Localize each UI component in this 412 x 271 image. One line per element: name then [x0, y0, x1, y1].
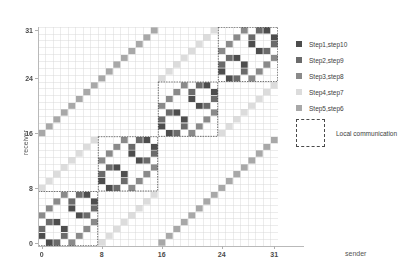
- legend-item: Step5,step6: [296, 100, 347, 116]
- legend-local-communication: Local communication: [296, 119, 397, 147]
- y-axis-title: receiver: [22, 130, 29, 155]
- legend: Step1,step10Step2,step9Step3,step8Step4,…: [296, 36, 347, 116]
- legend-item: Step2,step9: [296, 52, 347, 68]
- x-tick-label: 31: [270, 251, 278, 258]
- legend-item: Step3,step8: [296, 68, 347, 84]
- x-tick-label: 8: [100, 251, 104, 258]
- legend-item-label: Step3,step8: [309, 73, 344, 80]
- x-axis-title: sender: [345, 250, 366, 257]
- y-tick-label: 0: [22, 239, 33, 246]
- y-tick-label: 8: [22, 184, 33, 191]
- y-tick-label: 24: [22, 75, 33, 82]
- x-axis-line: [38, 246, 304, 247]
- legend-swatch-icon: [296, 73, 302, 79]
- y-tick-mark: [35, 78, 38, 79]
- legend-item-label: Step4,step7: [309, 89, 344, 96]
- legend-item-label: Step1,step10: [309, 41, 347, 48]
- y-tick-mark: [35, 243, 38, 244]
- y-tick-mark: [35, 133, 38, 134]
- dashed-box-icon: [296, 119, 325, 147]
- y-axis-line: [38, 27, 39, 246]
- legend-swatch-icon: [296, 89, 302, 95]
- legend-local-communication-label: Local communication: [336, 130, 397, 137]
- legend-item-label: Step5,step6: [309, 105, 344, 112]
- legend-item-label: Step2,step9: [309, 57, 344, 64]
- x-tick-mark: [42, 246, 43, 249]
- heatmap-plot-area: [38, 27, 278, 246]
- y-tick-label: 31: [22, 27, 33, 34]
- x-tick-label: 0: [40, 251, 44, 258]
- x-tick-mark: [102, 246, 103, 249]
- x-tick-label: 24: [218, 251, 226, 258]
- legend-swatch-icon: [296, 105, 302, 111]
- legend-item: Step1,step10: [296, 36, 347, 52]
- legend-swatch-icon: [296, 57, 302, 63]
- legend-item: Step4,step7: [296, 84, 347, 100]
- heatmap-canvas: [38, 27, 278, 246]
- y-tick-mark: [35, 30, 38, 31]
- x-tick-mark: [222, 246, 223, 249]
- x-tick-mark: [162, 246, 163, 249]
- x-tick-mark: [274, 246, 275, 249]
- communication-matrix-figure: 08162431 08162431 sender receiver Step1,…: [0, 0, 412, 271]
- y-tick-mark: [35, 188, 38, 189]
- legend-swatch-icon: [296, 41, 302, 47]
- x-tick-label: 16: [158, 251, 166, 258]
